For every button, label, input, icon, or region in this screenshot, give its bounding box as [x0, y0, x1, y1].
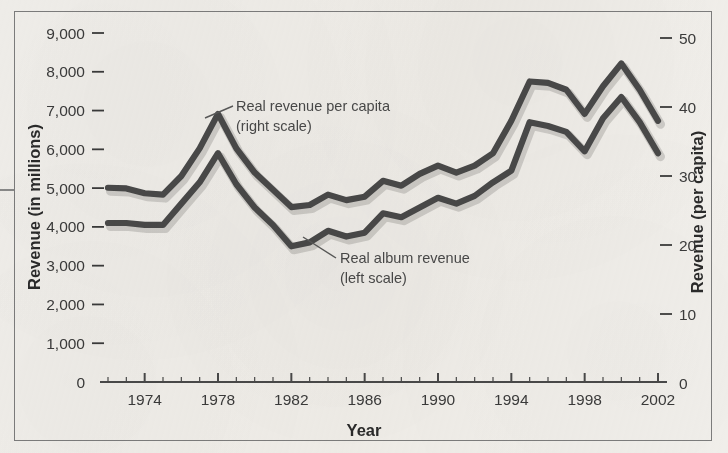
annotation-left-scale: Real album revenue (left scale) — [340, 250, 470, 286]
y-right-tick-label-10: 10 — [679, 306, 697, 323]
y-left-tick-label-4000: 4,000 — [46, 218, 85, 235]
y-axis-right-title: Revenue (per capita) — [688, 131, 706, 293]
x-tick-label-1974: 1974 — [127, 391, 162, 408]
y-left-tick-label-5000: 5,000 — [46, 180, 85, 197]
annotation-left-scale-line1: Real album revenue — [340, 250, 470, 266]
x-tick-label-1982: 1982 — [274, 391, 308, 408]
y-left-tick-label-7000: 7,000 — [46, 102, 85, 119]
y-axis-left-ticks — [92, 33, 104, 343]
x-tick-label-1978: 1978 — [201, 391, 235, 408]
y-axis-left-tick-labels: 01,0002,0003,0004,0005,0006,0007,0008,00… — [46, 25, 85, 391]
x-tick-label-1998: 1998 — [567, 391, 601, 408]
annotation-right-scale: Real revenue per capita (right scale) — [236, 98, 391, 134]
y-left-tick-label-1000: 1,000 — [46, 335, 85, 352]
y-left-tick-label-6000: 6,000 — [46, 141, 85, 158]
y-left-tick-label-3000: 3,000 — [46, 257, 85, 274]
y-left-tick-label-8000: 8,000 — [46, 63, 85, 80]
annotation-left-scale-line2: (left scale) — [340, 270, 407, 286]
x-axis: 19741978198219861990199419982002 — [100, 373, 675, 408]
x-tick-label-1986: 1986 — [347, 391, 381, 408]
annotation-right-scale-line2: (right scale) — [236, 118, 312, 134]
x-axis-ticks — [108, 373, 658, 382]
y-right-tick-label-40: 40 — [679, 99, 697, 116]
y-left-tick-label-0: 0 — [76, 374, 85, 391]
annotation-right-scale-line1: Real revenue per capita — [236, 98, 391, 114]
y-left-tick-label-2000: 2,000 — [46, 296, 85, 313]
y-axis-left-title: Revenue (in millions) — [25, 124, 43, 290]
y-axis-left: 01,0002,0003,0004,0005,0006,0007,0008,00… — [46, 25, 104, 391]
y-right-tick-label-50: 50 — [679, 30, 697, 47]
y-left-tick-label-9000: 9,000 — [46, 25, 85, 42]
x-tick-label-1994: 1994 — [494, 391, 529, 408]
y-axis-right-ticks — [660, 38, 672, 314]
x-axis-title: Year — [347, 421, 382, 439]
x-tick-label-1990: 1990 — [421, 391, 456, 408]
series-left-scale-shadow — [111, 100, 661, 249]
chart-canvas: 19741978198219861990199419982002 01,0002… — [0, 0, 728, 453]
y-right-tick-label-0: 0 — [679, 375, 688, 392]
data-series-group — [108, 64, 661, 250]
x-tick-label-2002: 2002 — [641, 391, 675, 408]
x-axis-tick-labels: 19741978198219861990199419982002 — [127, 391, 675, 408]
figure-container: 19741978198219861990199419982002 01,0002… — [0, 0, 728, 453]
